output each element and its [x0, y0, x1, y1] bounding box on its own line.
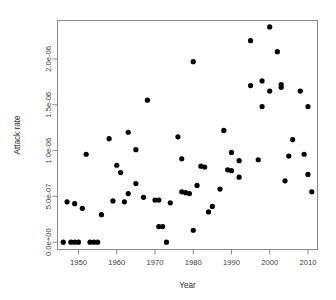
- data-point: [76, 240, 81, 245]
- y-axis-title: Attack rate: [13, 115, 22, 155]
- data-point: [156, 197, 161, 202]
- data-point: [110, 198, 115, 203]
- data-point: [229, 150, 234, 155]
- y-tick-label-0: 0.0e+00: [44, 228, 53, 256]
- data-point: [133, 181, 138, 186]
- x-axis-title: Year: [179, 281, 196, 290]
- data-point: [237, 175, 242, 180]
- data-point-series: [61, 24, 315, 244]
- data-point: [298, 88, 303, 93]
- data-point: [141, 195, 146, 200]
- data-point: [179, 156, 184, 161]
- data-point: [61, 240, 66, 245]
- x-tick-label-1950: 1950: [70, 258, 87, 267]
- data-point: [259, 104, 264, 109]
- scatter-plot-figure: 1950196019701980199020002010 0.0e+005.0e…: [0, 0, 336, 300]
- y-tick-label-4: 2.0e-06: [44, 46, 53, 72]
- data-point: [210, 204, 215, 209]
- data-point: [64, 199, 69, 204]
- x-tick-label-1960: 1960: [108, 258, 125, 267]
- data-point: [191, 228, 196, 233]
- data-point: [72, 201, 77, 206]
- data-point: [99, 212, 104, 217]
- data-point: [290, 137, 295, 142]
- data-point: [267, 88, 272, 93]
- data-point: [305, 104, 310, 109]
- data-point: [114, 163, 119, 168]
- plot-canvas: 1950196019701980199020002010 0.0e+005.0e…: [0, 0, 336, 300]
- data-point: [80, 206, 85, 211]
- data-point: [122, 199, 127, 204]
- y-tick-label-3: 1.5e-06: [44, 92, 53, 118]
- y-axis-tick-labels: 0.0e+005.0e-071.0e-061.5e-062.0e-06: [44, 46, 53, 256]
- data-point: [279, 85, 284, 90]
- data-point: [217, 186, 222, 191]
- plot-frame: [58, 21, 318, 250]
- y-tick-label-2: 1.0e-06: [44, 138, 53, 164]
- data-point: [282, 178, 287, 183]
- x-tick-label-1980: 1980: [185, 258, 202, 267]
- data-point: [84, 152, 89, 157]
- x-tick-label-1970: 1970: [147, 258, 164, 267]
- data-point: [145, 98, 150, 103]
- data-point: [118, 170, 123, 175]
- x-tick-label-1990: 1990: [223, 258, 240, 267]
- x-tick-label-2010: 2010: [299, 258, 316, 267]
- data-point: [133, 147, 138, 152]
- data-point: [248, 38, 253, 43]
- data-point: [259, 78, 264, 83]
- data-point: [202, 164, 207, 169]
- data-point: [126, 130, 131, 135]
- data-point: [187, 191, 192, 196]
- y-tick-label-1: 5.0e-07: [44, 183, 53, 209]
- data-point: [267, 24, 272, 29]
- data-point: [305, 172, 310, 177]
- data-point: [164, 240, 169, 245]
- data-point: [168, 200, 173, 205]
- data-point: [237, 158, 242, 163]
- x-axis-ticks: [79, 250, 308, 255]
- data-point: [194, 183, 199, 188]
- data-point: [302, 152, 307, 157]
- data-point: [126, 191, 131, 196]
- data-point: [309, 189, 314, 194]
- data-point: [191, 59, 196, 64]
- data-point: [95, 240, 100, 245]
- data-point: [256, 157, 261, 162]
- data-point: [275, 49, 280, 54]
- data-point: [107, 136, 112, 141]
- data-point: [248, 83, 253, 88]
- y-axis-ticks: [53, 59, 58, 242]
- data-point: [286, 153, 291, 158]
- data-point: [160, 224, 165, 229]
- data-point: [175, 134, 180, 139]
- x-axis-tick-labels: 1950196019701980199020002010: [70, 258, 316, 267]
- data-point: [221, 128, 226, 133]
- data-point: [206, 209, 211, 214]
- data-point: [229, 168, 234, 173]
- x-tick-label-2000: 2000: [261, 258, 278, 267]
